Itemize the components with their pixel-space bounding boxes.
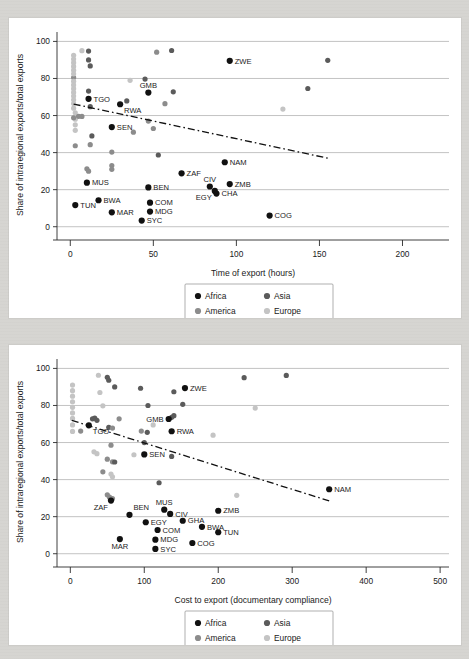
point-label: MDG (160, 535, 178, 544)
point-label: SEN (149, 450, 165, 459)
point-label: GMB (146, 415, 163, 424)
legend-marker-asia[interactable] (264, 293, 270, 299)
data-point (154, 50, 159, 55)
y-tick-label: 100 (36, 36, 50, 46)
data-point (110, 474, 115, 479)
data-point (79, 48, 84, 53)
page-root: 020406080100050100150200Time of export (… (0, 0, 469, 659)
data-point (284, 373, 289, 378)
legend-label-africa: Africa (205, 291, 227, 301)
x-tick-label: 400 (359, 576, 373, 586)
legend-marker-europe[interactable] (264, 635, 270, 641)
legend-marker-america[interactable] (195, 308, 201, 314)
legend: AfricaAsiaAmericaEuropeFitted values (185, 284, 333, 318)
data-point (71, 71, 76, 76)
point-label: MUS (92, 178, 109, 187)
data-point (100, 403, 105, 408)
point-label: ZWE (190, 384, 207, 393)
data-point (71, 106, 76, 111)
x-tick-label: 100 (229, 249, 243, 259)
data-point-labeled (215, 508, 221, 514)
legend-label-europe: Europe (274, 306, 301, 316)
point-label: SEN (117, 123, 133, 132)
data-point-labeled (166, 416, 172, 422)
y-tick-label: 100 (36, 363, 50, 373)
data-point-labeled (152, 537, 158, 543)
point-label: MAR (117, 208, 134, 217)
data-point-labeled (109, 124, 115, 130)
point-label: TUN (80, 201, 96, 210)
point-label: COM (155, 198, 173, 207)
legend-marker-america[interactable] (195, 635, 201, 641)
y-axis-title: Share of intraregional exports/total exp… (15, 54, 25, 216)
point-label: ZMB (223, 506, 239, 515)
data-point-labeled (154, 527, 160, 533)
data-point-labeled (117, 101, 123, 107)
data-point (70, 422, 75, 427)
point-label: CIV (203, 175, 217, 184)
data-point-labeled (180, 518, 186, 524)
legend-label-asia: Asia (274, 618, 291, 628)
x-tick-label: 200 (395, 249, 409, 259)
data-point (242, 375, 247, 380)
point-label: MAR (111, 542, 128, 551)
data-point (94, 451, 99, 456)
data-point (96, 373, 101, 378)
data-point (151, 126, 156, 131)
point-label: MUS (156, 498, 173, 507)
data-point (79, 114, 84, 119)
x-tick-label: 200 (211, 576, 225, 586)
data-point-labeled (72, 202, 78, 208)
x-tick-label: 0 (68, 576, 73, 586)
data-point-labeled (145, 89, 151, 95)
data-point (73, 122, 78, 127)
data-point-labeled (199, 524, 205, 530)
data-point (325, 58, 330, 63)
point-label: COG (275, 211, 292, 220)
data-point (117, 416, 122, 421)
data-point (169, 454, 174, 459)
data-point (131, 452, 136, 457)
point-label: SYC (147, 216, 163, 225)
point-label: ZMB (235, 180, 251, 189)
data-point (138, 386, 143, 391)
point-label: COM (163, 526, 181, 535)
legend-marker-africa[interactable] (195, 293, 201, 299)
data-point (94, 418, 99, 423)
data-point (109, 167, 114, 172)
y-tick-label: 20 (41, 185, 51, 195)
data-point (112, 459, 117, 464)
point-label: MDG (155, 207, 173, 216)
legend-marker-europe[interactable] (264, 308, 270, 314)
data-point (112, 384, 117, 389)
data-point (234, 493, 239, 498)
legend: AfricaAsiaAmericaEuropeFitted values (185, 611, 333, 645)
x-tick-label: 500 (433, 576, 447, 586)
data-point (156, 480, 161, 485)
point-label: TUN (223, 528, 239, 537)
y-tick-label: 0 (45, 222, 50, 232)
data-point-labeled (143, 519, 149, 525)
data-point-labeled (212, 188, 218, 194)
y-tick-label: 80 (41, 73, 51, 83)
x-tick-label: 0 (68, 249, 73, 259)
y-tick-label: 40 (41, 148, 51, 158)
point-label: ZAF (187, 169, 202, 178)
data-point (73, 143, 78, 148)
y-tick-label: 40 (41, 475, 51, 485)
point-label: SYC (160, 545, 176, 554)
scatter-plot-time-of-export: 020406080100050100150200Time of export (… (9, 18, 461, 318)
data-point (70, 388, 75, 393)
data-point (86, 88, 91, 93)
point-label: RWA (177, 427, 195, 436)
y-tick-label: 20 (41, 512, 51, 522)
data-point (124, 98, 129, 103)
legend-marker-africa[interactable] (195, 620, 201, 626)
legend-marker-asia[interactable] (264, 620, 270, 626)
data-point (86, 48, 91, 53)
data-point-labeled (86, 422, 92, 428)
data-point-labeled (108, 497, 114, 503)
data-point (88, 63, 93, 68)
x-tick-label: 50 (149, 249, 159, 259)
data-point (70, 410, 75, 415)
